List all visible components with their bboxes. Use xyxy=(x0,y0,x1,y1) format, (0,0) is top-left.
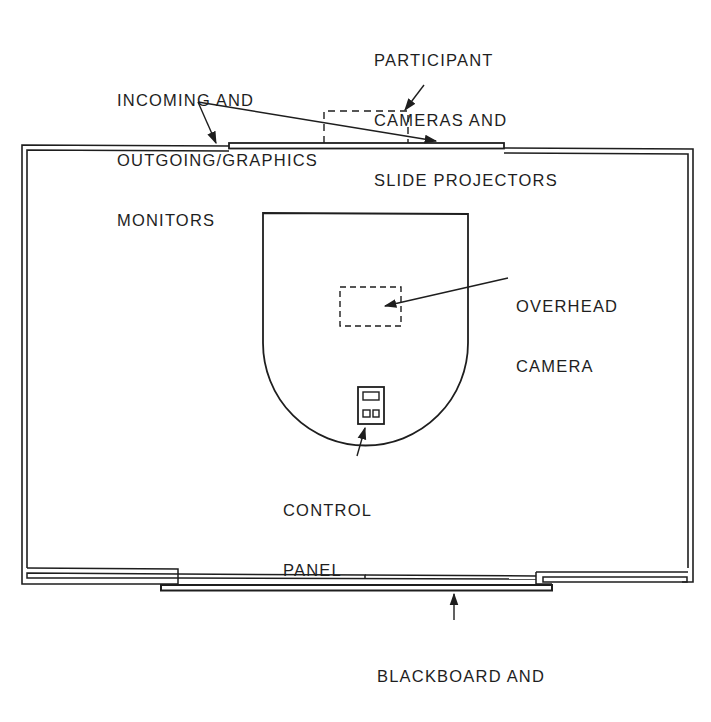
overhead-camera-label: OVERHEAD CAMERA xyxy=(516,256,618,396)
overhead-camera-area xyxy=(340,287,401,326)
blackboard-label: BLACKBOARD AND SCREEN HIDDEN BEHIND SLID… xyxy=(377,626,545,722)
control-panel-label: CONTROL PANEL xyxy=(283,460,372,600)
overhead-camera-arrow xyxy=(385,278,508,306)
participant-cameras-label: PARTICIPANT CAMERAS AND SLIDE PROJECTORS xyxy=(374,10,558,210)
control-panel-arrow xyxy=(357,428,365,456)
monitors-label: INCOMING AND OUTGOING/GRAPHICS MONITORS xyxy=(117,50,318,250)
control-panel xyxy=(358,387,384,424)
